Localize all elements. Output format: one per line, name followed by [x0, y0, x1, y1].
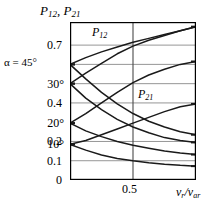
alpha-45-label: α = 45°	[4, 57, 37, 68]
y-tick-label-0: 0	[32, 173, 62, 188]
chart-title: P12, P21	[40, 4, 80, 19]
chart-title-p12-sub: 12	[48, 9, 57, 19]
y-tick-label-0.1: 0.1	[32, 154, 62, 169]
angle-label-10: 10°	[30, 137, 64, 152]
chart-figure: P12, P21 α = 45° 0.7 0.4 0.2 0.1 0 30° 2…	[0, 0, 222, 210]
chart-title-p12-main: P	[40, 3, 48, 18]
x-axis-label: vr/var	[176, 186, 200, 200]
angle-label-20: 20°	[30, 116, 64, 131]
x-axis-label-slash-v: /v	[184, 185, 193, 199]
y-tick-label-0.4: 0.4	[32, 96, 62, 111]
y-tick-label-0.7: 0.7	[32, 38, 62, 53]
chart-title-p21-sub: 21	[71, 9, 80, 19]
plot-svg	[70, 22, 196, 180]
angle-label-30: 30°	[30, 77, 64, 92]
x-axis-label-sub-ar: ar	[193, 191, 200, 200]
x-tick-label-0.5: 0.5	[122, 183, 137, 195]
plot-area	[70, 22, 196, 180]
